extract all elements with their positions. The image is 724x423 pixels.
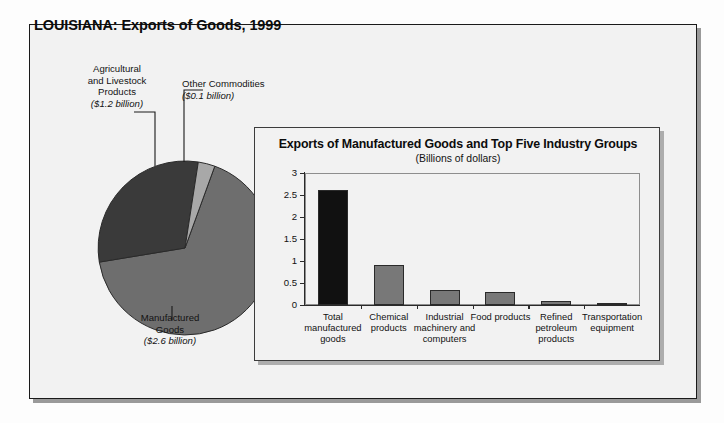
x-axis-label-line: computers: [423, 333, 467, 344]
x-axis-label-line: petroleum: [535, 322, 577, 333]
x-axis-tick-mark: [584, 305, 585, 309]
x-axis-label-line: Industrial: [426, 311, 464, 322]
pie-label-agricultural: Agricultural and Livestock Products ($1.…: [58, 63, 176, 109]
x-axis-tick-mark: [361, 305, 362, 309]
y-axis-tick-label: 2: [267, 211, 297, 222]
pie-label-other-line1: Other Commodities: [182, 78, 265, 89]
figure-root: LOUISIANA: Exports of Goods, 1999 Agricu…: [0, 0, 724, 423]
pie-label-other-commodities: Other Commodities ($0.1 billion): [182, 78, 310, 101]
bar-series: [305, 173, 640, 305]
callout-panel: Exports of Manufactured Goods and Top Fi…: [254, 127, 660, 361]
chart-subtitle: (Billions of dollars): [255, 153, 661, 164]
x-axis-label-line: Refined: [540, 311, 572, 322]
x-axis-label-line: products: [371, 322, 407, 333]
x-axis-label: Transportationequipment: [578, 311, 646, 333]
x-axis-label-line: Total: [323, 311, 343, 322]
y-axis-tick-mark: [300, 305, 305, 306]
bar: [485, 292, 515, 305]
x-axis-label-line: Chemical: [369, 311, 408, 322]
x-axis-label-line: Transportation: [582, 311, 642, 322]
x-axis-label-line: products: [538, 333, 574, 344]
y-axis-tick-label: 3: [267, 167, 297, 178]
x-axis-label-line: manufactured: [304, 322, 361, 333]
x-axis-tick-mark: [528, 305, 529, 309]
x-axis-tick-mark: [473, 305, 474, 309]
pie-label-agricultural-line1: Agricultural: [93, 63, 141, 74]
x-axis-tick-mark: [417, 305, 418, 309]
y-axis-tick-label: 0: [267, 299, 297, 310]
y-axis-tick-label: 1.5: [267, 233, 297, 244]
pie-label-other-amount: ($0.1 billion): [182, 90, 310, 102]
bar: [374, 265, 404, 305]
y-axis-tick-label: 2.5: [267, 189, 297, 200]
bar: [541, 301, 571, 305]
pie-label-agricultural-amount: ($1.2 billion): [58, 98, 176, 110]
chart-title: Exports of Manufactured Goods and Top Fi…: [255, 137, 661, 151]
leader-line-agricultural: [134, 112, 155, 166]
pie-slice-agricultural: [98, 161, 198, 262]
bar: [597, 303, 627, 305]
bar: [318, 190, 348, 305]
x-axis-label-line: machinery and: [414, 322, 476, 333]
pie-label-manufactured: Manufactured Goods ($2.6 billion): [105, 312, 235, 347]
x-axis-label-line: equipment: [590, 322, 634, 333]
pie-label-agricultural-line2: and Livestock: [88, 75, 147, 86]
y-axis-tick-label: 0.5: [267, 277, 297, 288]
x-axis-label-line: goods: [320, 333, 346, 344]
pie-label-agricultural-line3: Products: [98, 86, 136, 97]
pie-label-manufactured-line1: Manufactured: [141, 312, 200, 323]
y-axis-tick-label: 1: [267, 255, 297, 266]
bar: [430, 290, 460, 305]
pie-label-manufactured-amount: ($2.6 billion): [105, 335, 235, 347]
pie-label-manufactured-line2: Goods: [156, 324, 184, 335]
